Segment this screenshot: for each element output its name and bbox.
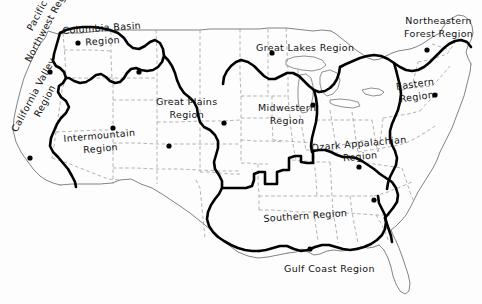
region-dot-ozark-appalachian: [356, 164, 361, 169]
boundary-midwest-south: [311, 90, 317, 152]
region-dot-midwestern: [310, 102, 315, 107]
region-dot-intermountain: [110, 125, 115, 130]
region-dot-southern: [371, 197, 376, 202]
region-dot-columbia-basin: [75, 40, 80, 45]
region-dot-great-lakes: [269, 50, 274, 55]
boundary-ozark-south: [222, 150, 349, 188]
region-dot-layer: [27, 40, 437, 251]
boundary-great-lakes-south: [241, 60, 340, 92]
region-dot-gulf-coast: [307, 246, 312, 251]
boundary-pacific-coastal: [50, 33, 76, 187]
region-dot-northeastern-forest: [424, 47, 429, 52]
region-dot-great-plains: [166, 143, 171, 148]
us-regions-map: PacificNorthwest RegionColumbia BasinReg…: [0, 0, 482, 304]
boundary-great-lakes-west: [223, 60, 241, 84]
boundary-great-plains-east: [164, 56, 259, 251]
boundary-eastern-south: [387, 63, 401, 189]
state-boundaries: [52, 28, 461, 243]
region-dot-eastern: [432, 92, 437, 97]
dot-idaho: [136, 69, 141, 74]
map-canvas: [0, 0, 482, 304]
region-dot-california-valley: [27, 155, 32, 160]
national-outline: [13, 15, 473, 294]
region-dot-pacific-northwest: [47, 69, 52, 74]
boundary-northeast-forest: [340, 40, 471, 71]
boundary-gulf-west: [259, 196, 386, 251]
dot-colorado: [221, 120, 226, 125]
